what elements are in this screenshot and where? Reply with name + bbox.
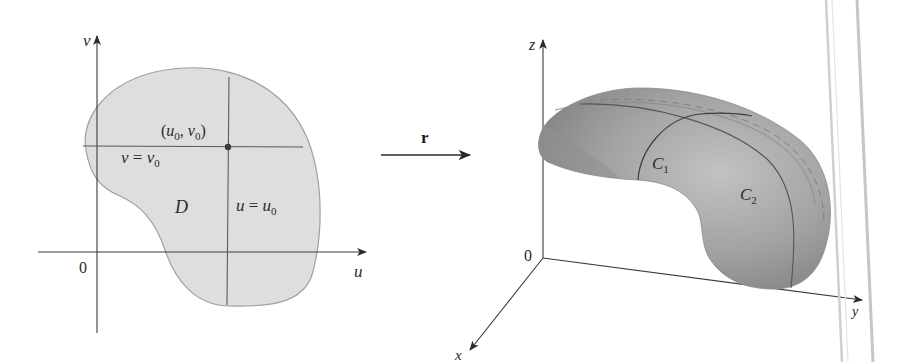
v-axis-label: v [83, 31, 91, 50]
uv-plane-panel: v u 0 (u0, v0) v = v0 u = u0 D [38, 31, 366, 333]
region-d [85, 68, 320, 306]
origin-label-right: 0 [524, 247, 532, 264]
mapping-label-r: r [421, 128, 429, 147]
x-axis [470, 258, 543, 350]
z-axis-label: z [528, 36, 536, 53]
xyz-space-panel: z y x 0 C1 C2 [454, 36, 862, 362]
parametric-surface-figure: v u 0 (u0, v0) v = v0 u = u0 D r [0, 0, 902, 362]
origin-label-left: 0 [79, 259, 87, 276]
y-axis-label: y [850, 304, 859, 319]
page-edge [826, 0, 873, 362]
region-label-d: D [174, 197, 188, 217]
x-axis-label: x [454, 347, 462, 362]
point-u0-v0 [225, 144, 231, 150]
mapping-arrow-r: r [381, 128, 470, 155]
u-axis-label: u [354, 262, 363, 281]
label-u-equals-u0: u = u0 [236, 196, 277, 217]
